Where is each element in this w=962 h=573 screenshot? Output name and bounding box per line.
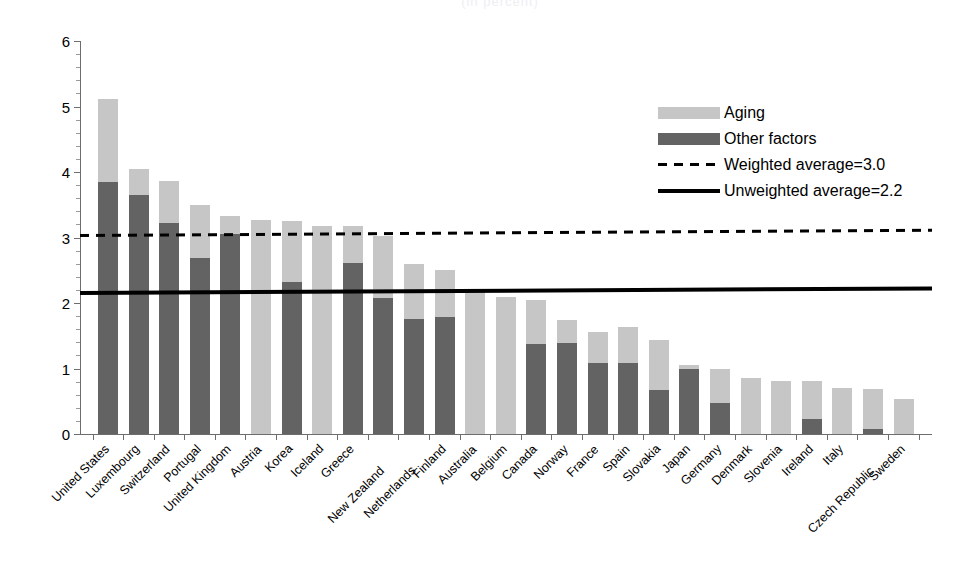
bar-norway [557,320,577,434]
y-minor-tick [76,382,80,383]
bar-australia [465,292,485,434]
y-tick-label-5: 5 [46,99,70,114]
bar-segment-aging [251,220,271,434]
x-tick [827,434,828,440]
bar-canada [526,300,546,434]
bar-austria [251,220,271,434]
x-axis-label-norway: Norway [531,442,571,482]
legend-label: Aging [724,100,765,126]
x-tick [643,434,644,440]
bar-segment-other-factors [710,403,730,434]
x-tick [93,434,94,440]
bar-segment-other-factors [802,419,822,434]
x-axis-label-ireland: Ireland [779,442,816,479]
bar-segment-other-factors [588,363,608,434]
bar-segment-other-factors [679,369,699,435]
x-tick [123,434,124,440]
bar-italy [832,388,852,434]
bar-japan [679,365,699,434]
chart-figure: (in percent) 0123456 United StatesLuxemb… [0,0,962,573]
bar-finland [435,270,455,434]
x-tick [429,434,430,440]
y-tick-label-2: 2 [46,296,70,311]
bar-segment-other-factors [190,258,210,434]
x-axis-label-austria: Austria [227,442,264,479]
bar-france [588,332,608,434]
bar-segment-other-factors [373,298,393,434]
bar-luxembourg [129,169,149,434]
x-axis-label-france: France [564,442,601,479]
legend-label: Weighted average=3.0 [724,152,885,178]
legend-item: Unweighted average=2.2 [658,178,958,204]
x-tick [245,434,246,440]
legend-swatch-solid-line [658,189,720,193]
bar-segment-other-factors [220,234,240,434]
bar-segment-other-factors [98,182,118,434]
bar-czech-republic [863,389,883,434]
bar-segment-aging [465,292,485,434]
legend-label: Other factors [724,126,816,152]
x-tick [368,434,369,440]
bar-switzerland [159,181,179,434]
y-minor-tick [76,159,80,160]
bar-germany [710,369,730,434]
bar-segment-aging [557,320,577,343]
bar-segment-aging [312,226,332,434]
bar-segment-other-factors [159,223,179,434]
y-minor-tick [76,224,80,225]
y-minor-tick [76,342,80,343]
legend-swatch-swatch-dark [658,133,720,145]
legend-swatch-swatch-light [658,107,720,119]
y-minor-tick [76,316,80,317]
bar-segment-other-factors [557,343,577,434]
x-tick [184,434,185,440]
x-tick [490,434,491,440]
bar-belgium [496,297,516,434]
x-tick [521,434,522,440]
bar-portugal [190,205,210,434]
y-tick-2 [74,303,80,304]
x-axis [80,434,932,435]
y-minor-tick [76,277,80,278]
bar-segment-aging [526,300,546,344]
bar-segment-aging [894,399,914,434]
y-minor-tick [76,211,80,212]
legend-item: Aging [658,100,958,126]
bar-denmark [741,378,761,434]
y-tick-1 [74,369,80,370]
bar-segment-aging [618,327,638,363]
bar-segment-other-factors [404,319,424,434]
y-minor-tick [76,408,80,409]
x-tick [307,434,308,440]
x-tick [276,434,277,440]
bar-greece [343,226,363,434]
chart-legend: AgingOther factorsWeighted average=3.0Un… [658,100,958,204]
bar-iceland [312,226,332,434]
y-tick-label-0: 0 [46,427,70,442]
y-minor-tick [76,93,80,94]
bar-slovenia [771,381,791,434]
bar-united-kingdom [220,216,240,434]
y-minor-tick [76,264,80,265]
x-tick [674,434,675,440]
y-minor-tick [76,355,80,356]
x-tick [888,434,889,440]
bar-segment-aging [98,99,118,183]
y-tick-5 [74,107,80,108]
y-tick-3 [74,238,80,239]
y-minor-tick [76,54,80,55]
bar-segment-aging [710,369,730,403]
bar-segment-aging [863,389,883,428]
bar-ireland [802,381,822,434]
x-tick [857,434,858,440]
y-tick-4 [74,172,80,173]
bar-segment-aging [190,205,210,259]
x-tick [796,434,797,440]
x-tick [215,434,216,440]
bar-segment-aging [832,388,852,434]
bar-segment-aging [435,270,455,317]
bar-sweden [894,399,914,434]
bar-spain [618,327,638,434]
y-axis [80,41,81,435]
legend-swatch-dashed-line [658,163,720,166]
